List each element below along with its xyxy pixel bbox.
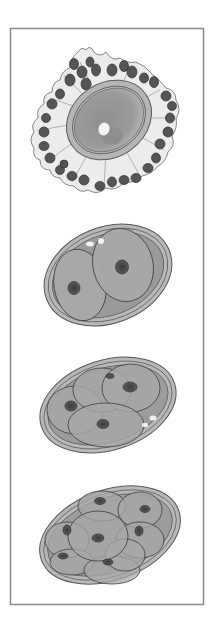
- nucleus: [140, 506, 150, 513]
- nucleus: [95, 498, 106, 505]
- nucleus: [65, 401, 77, 411]
- stage-oocyte: [31, 47, 179, 192]
- nucleus: [92, 534, 104, 542]
- nucleus: [68, 282, 80, 295]
- nucleus: [63, 525, 71, 535]
- stage-two-cell: [29, 206, 187, 344]
- nucleus: [106, 374, 114, 379]
- nucleus: [116, 260, 129, 274]
- nucleus: [97, 420, 109, 429]
- polar-body: [150, 416, 157, 421]
- polar-body: [98, 238, 104, 244]
- stage-four-cell: [28, 341, 189, 470]
- nucleus: [135, 526, 143, 536]
- polar-body: [86, 242, 94, 247]
- nucleus: [123, 382, 137, 392]
- embryo-cleavage-figure: [0, 0, 216, 621]
- stage-eight-cell: [26, 468, 194, 603]
- nucleus: [58, 553, 68, 559]
- nucleus: [103, 559, 113, 565]
- polar-body: [142, 423, 148, 427]
